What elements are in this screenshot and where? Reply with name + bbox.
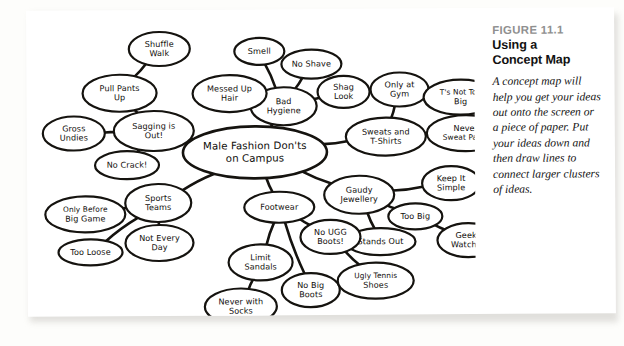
concept-map: Male Fashion Don'tson CampusSagging isOu…: [26, 8, 476, 317]
concept-node-label: Stands Out: [357, 236, 403, 246]
concept-map-svg: Male Fashion Don'tson CampusSagging isOu…: [26, 8, 476, 317]
concept-map-edge: [265, 64, 275, 88]
concept-map-edge: [302, 172, 331, 184]
concept-node-label: Undies: [60, 133, 88, 143]
concept-map-edge: [393, 187, 422, 191]
concept-node-label: Look: [334, 91, 354, 101]
concept-node-label: Too Loose: [69, 247, 110, 257]
concept-map-edge: [266, 178, 272, 192]
figure-title: Using a Concept Map: [492, 37, 602, 67]
concept-node-limitsandals[interactable]: LimitSandals: [229, 244, 293, 280]
concept-node-label: Sweat Pants: [443, 133, 476, 142]
figure-number: FIGURE 11.1: [492, 23, 602, 36]
concept-node-label: No Shave: [292, 58, 331, 68]
concept-node-label: Up: [114, 92, 125, 102]
concept-node-label: Watches: [451, 239, 476, 249]
concept-node-label: Simple: [437, 182, 465, 192]
concept-node-onlygym[interactable]: Only atGym: [370, 72, 428, 106]
concept-node-label: Hair: [221, 93, 239, 103]
concept-node-tsnottoobig[interactable]: T's Not TooBig: [424, 79, 476, 114]
concept-node-label: Walk: [149, 48, 169, 58]
figure-caption-body: A concept map will help you get your ide…: [492, 73, 603, 197]
concept-map-edge: [135, 64, 146, 76]
concept-map-edge: [346, 251, 359, 264]
concept-node-gross[interactable]: GrossUndies: [43, 116, 105, 150]
concept-node-label: Socks: [229, 306, 253, 316]
figure-title-line-1: Using a: [492, 37, 602, 52]
concept-node-gaudy[interactable]: GaudyJewellery: [324, 176, 394, 214]
concept-node-label: Shoes: [363, 280, 388, 290]
concept-node-label: Hygiene: [267, 105, 301, 115]
concept-map-nodes: Male Fashion Don'tson CampusSagging isOu…: [42, 30, 476, 317]
concept-node-noteveryday[interactable]: Not EveryDay: [125, 225, 193, 261]
concept-node-tooloose[interactable]: Too Loose: [58, 239, 122, 265]
concept-node-label: Big Game: [65, 213, 105, 223]
concept-node-shuffle[interactable]: ShuffleWalk: [129, 32, 190, 66]
concept-node-label: Day: [151, 242, 167, 252]
figure-page: Male Fashion Don'tson CampusSagging isOu…: [26, 7, 616, 317]
concept-node-label: Big: [454, 96, 467, 106]
concept-node-label: Sandals: [244, 261, 277, 271]
figure-title-line-2: Concept Map: [492, 52, 602, 67]
concept-map-edge: [323, 141, 347, 144]
concept-map-edge: [183, 174, 214, 190]
concept-node-nobigboots[interactable]: No BigBoots: [282, 273, 340, 307]
concept-node-label: Smell: [248, 46, 271, 56]
concept-node-label: Boots: [299, 289, 322, 299]
concept-node-label: Jewellery: [339, 194, 378, 204]
concept-node-smell[interactable]: Smell: [234, 38, 284, 65]
concept-node-pullpants[interactable]: Pull PantsUp: [82, 75, 156, 112]
concept-node-shag[interactable]: ShagLook: [317, 76, 369, 108]
concept-node-label: Boots!: [317, 236, 344, 246]
concept-node-label: Out!: [145, 130, 163, 140]
concept-node-label: T-Shirts: [369, 136, 401, 146]
concept-node-footwear[interactable]: Footwear: [244, 192, 314, 223]
concept-node-noshave[interactable]: No Shave: [281, 49, 341, 78]
concept-node-messedup[interactable]: Messed UpHair: [192, 75, 266, 112]
concept-map-edge: [249, 280, 253, 289]
concept-node-sweats[interactable]: Sweats andT-Shirts: [346, 117, 426, 155]
concept-map-edge: [266, 223, 274, 245]
concept-node-label: Footwear: [260, 202, 299, 212]
concept-node-label: Teams: [144, 202, 171, 212]
concept-node-outline: [424, 79, 476, 114]
concept-map-edge: [300, 219, 309, 224]
concept-map-edge: [435, 225, 444, 229]
concept-node-neversocks[interactable]: Never withSocks: [205, 288, 277, 317]
concept-node-label: Male Fashion Don'ts: [203, 140, 307, 152]
concept-node-nocrack[interactable]: No Crack!: [95, 151, 159, 179]
concept-node-nouggboots[interactable]: No UGGBoots!: [300, 220, 360, 254]
concept-node-label: Never: [453, 123, 475, 133]
concept-node-uglytennis[interactable]: Ugly TennisShoes: [338, 262, 414, 298]
concept-map-edge: [295, 78, 302, 89]
concept-node-sagging[interactable]: Sagging isOut!: [114, 111, 194, 151]
concept-node-label: No Crack!: [107, 160, 148, 170]
concept-node-label: Gym: [390, 89, 409, 99]
figure-screenshot: Male Fashion Don'tson CampusSagging isOu…: [0, 0, 624, 346]
concept-node-neversweat[interactable]: NeverSweat Pants: [427, 115, 476, 151]
concept-node-sports[interactable]: SportsTeams: [125, 184, 191, 222]
concept-map-edge: [368, 213, 375, 228]
concept-node-onlybefore[interactable]: Only BeforeBig Game: [45, 196, 125, 232]
concept-node-label: on Campus: [226, 153, 284, 164]
concept-node-keepsimple[interactable]: Keep ItSimple: [422, 166, 476, 200]
concept-node-center[interactable]: Male Fashion Don'tson Campus: [183, 126, 327, 179]
figure-caption: FIGURE 11.1 Using a Concept Map A concep…: [492, 23, 603, 197]
concept-node-label: Too Big: [399, 211, 430, 221]
concept-node-toobig[interactable]: Too Big: [388, 203, 442, 229]
concept-map-edge: [391, 106, 394, 118]
